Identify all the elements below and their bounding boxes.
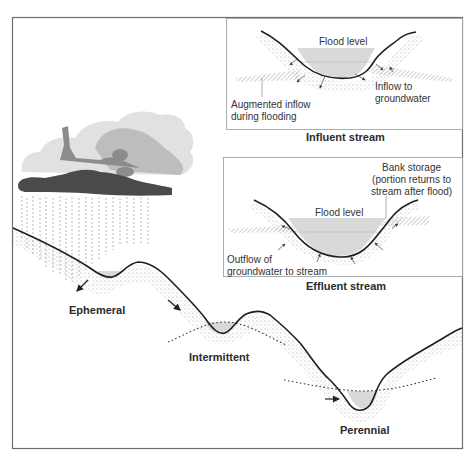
effluent-outflow-label: Outflow of groundwater to stream (227, 254, 327, 278)
intermittent-label: Intermittent (189, 351, 250, 363)
water-table-perennial (284, 378, 436, 391)
ephemeral-label: Ephemeral (69, 304, 125, 316)
stream-diagram: Flood level Inflow to groundwater Augmen… (0, 0, 475, 459)
perennial-label: Perennial (340, 424, 390, 436)
effluent-flood-level-label: Flood level (315, 207, 363, 219)
influent-augmented-label: Augmented inflow during flooding (231, 99, 311, 123)
diagram-canvas (0, 0, 475, 459)
effluent-stream-caption: Effluent stream (306, 280, 386, 292)
rain-cloud (18, 111, 193, 195)
influent-stream-caption: Influent stream (306, 131, 385, 143)
influent-inflow-label: Inflow to groundwater (375, 81, 431, 105)
influent-flood-level-label: Flood level (319, 36, 367, 48)
effluent-bank-storage-label: Bank storage (portion returns to stream … (371, 162, 452, 198)
